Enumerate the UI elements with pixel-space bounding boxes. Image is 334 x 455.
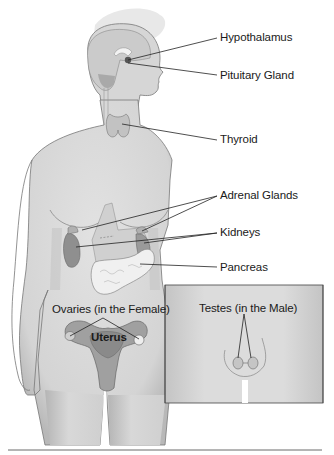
label-thyroid: Thyroid <box>220 134 258 146</box>
label-kidneys: Kidneys <box>220 227 260 239</box>
label-hypothalamus: Hypothalamus <box>220 32 292 44</box>
label-pancreas: Pancreas <box>220 262 268 274</box>
label-uterus: Uterus <box>91 332 127 344</box>
label-pituitary-gland: Pituitary Gland <box>220 70 294 82</box>
label-adrenal-glands: Adrenal Glands <box>220 190 298 202</box>
label-ovaries: Ovaries (in the Female) <box>52 304 170 316</box>
body-silhouette <box>12 24 172 445</box>
endocrine-diagram: Hypothalamus Pituitary Gland Thyroid Adr… <box>0 0 334 455</box>
label-testes: Testes (in the Male) <box>199 303 297 315</box>
